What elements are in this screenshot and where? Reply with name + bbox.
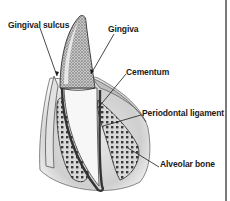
label-gingiva: Gingiva (108, 24, 138, 34)
leader-gingival-sulcus (40, 28, 57, 76)
label-alveolar-bone: Alveolar bone (160, 159, 215, 169)
leader-gingiva (91, 34, 114, 74)
label-cementum: Cementum (126, 67, 169, 77)
label-gingival-sulcus: Gingival sulcus (8, 20, 69, 30)
label-periodontal-ligament: Periodontal ligament (142, 108, 224, 118)
